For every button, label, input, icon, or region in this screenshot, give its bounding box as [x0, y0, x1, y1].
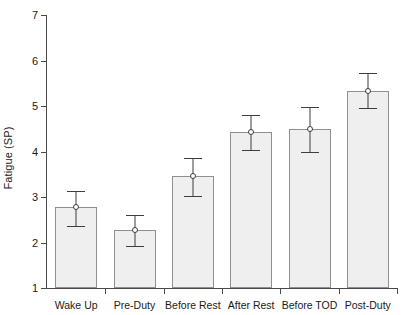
- data-point-marker: [73, 204, 79, 210]
- y-tick-mark: [41, 288, 47, 289]
- data-point-marker: [307, 126, 313, 132]
- error-bar-cap-upper: [242, 115, 260, 116]
- x-tick-mark: [105, 288, 106, 294]
- y-tick-mark: [41, 106, 47, 107]
- error-bar-cap-upper: [67, 191, 85, 192]
- error-bar-cap-upper: [184, 158, 202, 159]
- x-tick-mark: [222, 288, 223, 294]
- error-bar-cap-upper: [301, 107, 319, 108]
- x-tick-label: Pre-Duty: [114, 299, 155, 311]
- y-axis-title-text: Fatigue (SP): [2, 126, 14, 189]
- error-bar: [230, 15, 272, 288]
- x-tick-mark: [397, 288, 398, 294]
- y-axis-title: Fatigue (SP): [0, 0, 16, 315]
- y-tick-label: 1: [32, 282, 38, 294]
- y-tick-mark: [41, 61, 47, 62]
- x-tick-label: Before Rest: [165, 299, 220, 311]
- error-bar: [347, 15, 389, 288]
- x-tick-label: Wake Up: [55, 299, 98, 311]
- error-bar-cap-lower: [301, 152, 319, 153]
- x-tick-label: Post-Duty: [345, 299, 391, 311]
- error-bar-cap-lower: [242, 150, 260, 151]
- error-bar-cap-lower: [359, 108, 377, 109]
- data-point-marker: [190, 173, 196, 179]
- error-bar-cap-upper: [126, 215, 144, 216]
- y-tick-mark: [41, 243, 47, 244]
- error-bar: [289, 15, 331, 288]
- x-tick-mark: [164, 288, 165, 294]
- error-bar-cap-lower: [184, 196, 202, 197]
- error-bar-cap-lower: [67, 226, 85, 227]
- data-point-marker: [248, 129, 254, 135]
- x-tick-mark: [280, 288, 281, 294]
- y-tick-label: 2: [32, 237, 38, 249]
- y-tick-label: 6: [32, 55, 38, 67]
- error-bar-cap-lower: [126, 246, 144, 247]
- y-tick-label: 5: [32, 100, 38, 112]
- y-tick-label: 7: [32, 9, 38, 21]
- error-bar-cap-upper: [359, 73, 377, 74]
- y-tick-mark: [41, 152, 47, 153]
- error-bar: [55, 15, 97, 288]
- data-point-marker: [365, 88, 371, 94]
- error-bar: [172, 15, 214, 288]
- data-point-marker: [132, 227, 138, 233]
- fatigue-bar-chart: Fatigue (SP) 1234567 Wake UpPre-DutyBefo…: [0, 0, 417, 315]
- x-tick-label: After Rest: [228, 299, 275, 311]
- y-tick-label: 4: [32, 146, 38, 158]
- plot-area: 1234567 Wake UpPre-DutyBefore RestAfter …: [46, 15, 397, 289]
- y-tick-label: 3: [32, 191, 38, 203]
- y-tick-mark: [41, 197, 47, 198]
- x-tick-label: Before TOD: [282, 299, 338, 311]
- x-tick-mark: [339, 288, 340, 294]
- y-tick-mark: [41, 15, 47, 16]
- error-bar: [114, 15, 156, 288]
